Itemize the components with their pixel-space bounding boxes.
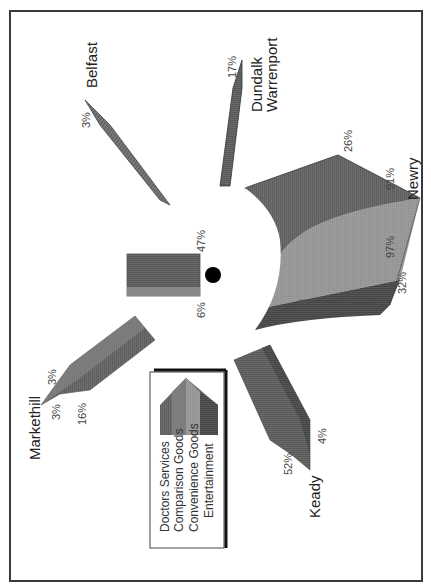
newry-value-91: 91% bbox=[384, 168, 396, 190]
legend-item-doctors-services: Doctors Services bbox=[158, 441, 172, 532]
newry-value-26: 26% bbox=[342, 130, 354, 152]
newry-value-32: 32% bbox=[396, 272, 408, 294]
keady-value-right: 4% bbox=[316, 428, 328, 444]
town-label-belfast: Belfast bbox=[83, 41, 100, 88]
markethill-value-bottom: 16% bbox=[76, 403, 88, 425]
legend-item-entertainment: Entertainment bbox=[202, 443, 216, 518]
legend-item-convenience-goods: Convenience Goods bbox=[187, 423, 201, 532]
markethill-value-top: 3% bbox=[46, 369, 58, 385]
town-label-keady: Keady bbox=[306, 475, 323, 518]
town-label-newry: Newry bbox=[404, 157, 421, 200]
keady-shape bbox=[234, 345, 310, 470]
town-label-markethill: Markethill bbox=[26, 396, 43, 460]
center-bar-left-value: 6% bbox=[195, 302, 207, 318]
center-bar-right-value: 47% bbox=[195, 230, 207, 252]
belfast-tip-value: 3% bbox=[80, 112, 92, 128]
markethill-shape bbox=[41, 316, 155, 405]
center-bar bbox=[127, 254, 200, 296]
town-label-warrenport: Warrenport bbox=[263, 37, 280, 112]
legend-item-comparison-goods: Comparison Goods bbox=[172, 429, 186, 532]
newry-value-97: 97% bbox=[384, 236, 396, 258]
radial-diagram: Belfast 3% Dundalk Warrenport 17% Newry … bbox=[0, 0, 431, 585]
dundalk-tip-value: 17% bbox=[226, 56, 238, 78]
belfast-shape bbox=[85, 100, 170, 205]
center-dot-icon bbox=[205, 267, 221, 283]
legend: Doctors Services Comparison Goods Conven… bbox=[150, 370, 226, 548]
keady-value-left: 52% bbox=[282, 453, 294, 475]
markethill-value-tip: 3% bbox=[50, 404, 62, 420]
